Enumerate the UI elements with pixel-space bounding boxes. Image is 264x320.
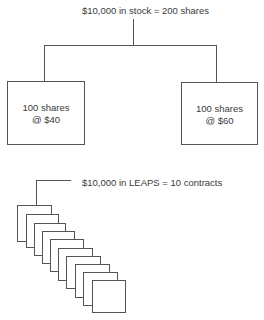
leaps-connector-horizontal <box>36 180 71 181</box>
stock-title: $10,000 in stock = 200 shares <box>82 5 209 16</box>
left-share-box: 100 shares @ $40 <box>7 81 85 145</box>
right-branch-line <box>216 45 217 82</box>
right-box-price: @ $60 <box>182 115 257 127</box>
right-box-shares: 100 shares <box>182 103 257 115</box>
right-share-box: 100 shares @ $60 <box>181 82 258 145</box>
left-box-shares: 100 shares <box>8 102 84 114</box>
stock-trunk-line <box>133 19 134 45</box>
left-box-price: @ $40 <box>8 114 84 126</box>
leaps-title: $10,000 in LEAPS = 10 contracts <box>82 177 222 188</box>
stock-branch-line <box>44 45 217 46</box>
leaps-connector-vertical <box>36 180 37 205</box>
left-branch-line <box>44 45 45 81</box>
contract-card <box>92 280 126 313</box>
